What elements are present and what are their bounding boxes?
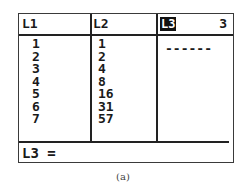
l3-empty-placeholder[interactable]: ------ [165,41,212,56]
calculator-list-editor: L1 L2 L3 3 1 2 3 4 5 6 7 1 2 4 8 16 31 5… [18,13,234,163]
entry-divider [19,141,229,143]
column-l1: 1 2 3 4 5 6 7 [32,38,40,126]
header-l2[interactable]: L2 [93,14,109,34]
header-l3-selected: L3 [160,17,176,31]
header-l1[interactable]: L1 [22,14,38,34]
entry-line[interactable]: L3 = [22,145,56,161]
column-divider-2 [156,14,158,142]
header-l3[interactable]: L3 [160,14,176,34]
column-divider-1 [90,14,92,142]
column-l2: 1 2 4 8 16 31 57 [98,38,114,126]
l2-cell[interactable]: 57 [98,113,114,126]
l1-cell[interactable]: 7 [32,113,40,126]
column-index: 3 [219,14,227,34]
figure-caption: (a) [0,171,246,182]
header-divider [19,34,233,36]
